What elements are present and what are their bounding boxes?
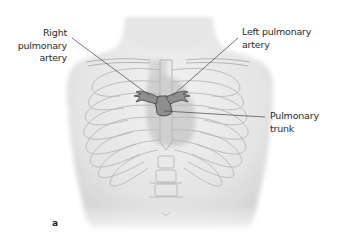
label-line: Pulmonary (270, 110, 319, 123)
panel-letter: a (52, 218, 58, 228)
label-line: artery (242, 39, 311, 52)
label-line: Left pulmonary (242, 26, 311, 39)
label-line: artery (18, 52, 67, 65)
label-right-pulmonary-artery: Right pulmonary artery (18, 27, 67, 65)
label-pulmonary-trunk: Pulmonary trunk (270, 110, 319, 135)
label-line: pulmonary (18, 40, 67, 53)
label-line: trunk (270, 123, 319, 136)
label-line: Right (18, 27, 67, 40)
anatomy-figure: Right pulmonary artery Left pulmonary ar… (0, 0, 337, 237)
label-left-pulmonary-artery: Left pulmonary artery (242, 26, 311, 51)
